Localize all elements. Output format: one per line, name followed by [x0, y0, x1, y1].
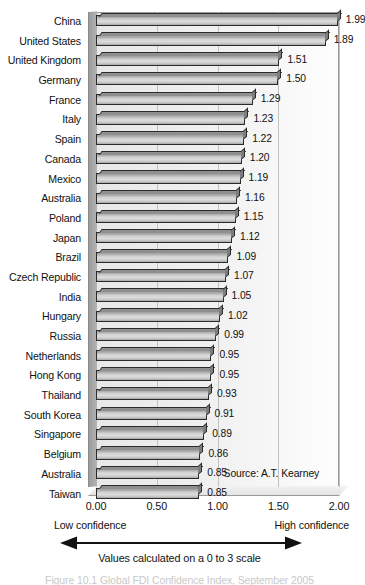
x-tick-label: 0.50	[146, 500, 167, 512]
category-label: United Kingdom	[0, 51, 84, 71]
figure-caption-cutoff: Figure 10.1 Global FDI Confidence Index,…	[0, 574, 359, 585]
bar	[96, 488, 199, 499]
bar	[96, 409, 207, 420]
bar	[96, 429, 204, 440]
bar-value-label: 1.07	[234, 269, 254, 282]
bar	[96, 74, 278, 85]
category-axis-labels: ChinaUnited StatesUnited KingdomGermanyF…	[0, 12, 84, 504]
bar-row: 1.16	[96, 189, 339, 209]
category-label: Australia	[0, 189, 84, 209]
category-label: Poland	[0, 209, 84, 229]
scale-caption: Values calculated on a 0 to 3 scale	[0, 552, 359, 564]
category-label: Thailand	[0, 386, 84, 406]
bar	[96, 134, 244, 145]
x-tick-label: 1.00	[207, 500, 228, 512]
bar-row: 1.20	[96, 150, 339, 170]
bar	[96, 173, 241, 184]
category-label: Australia	[0, 465, 84, 485]
bar-row: 1.12	[96, 229, 339, 249]
bar-row: 1.05	[96, 288, 339, 308]
bar-value-label: 1.89	[334, 33, 354, 46]
category-label: Singapore	[0, 425, 84, 445]
bar-value-label: 1.22	[252, 132, 272, 145]
bar-value-label: 0.95	[219, 348, 239, 361]
bar	[96, 449, 200, 460]
high-confidence-label: High confidence	[275, 519, 349, 531]
category-label: France	[0, 91, 84, 111]
category-label: Netherlands	[0, 347, 84, 367]
category-label: South Korea	[0, 406, 84, 426]
bar-value-label: 1.02	[228, 309, 248, 322]
bar-row: 0.95	[96, 366, 339, 386]
x-tick-label: 1.50	[268, 500, 289, 512]
bar-value-label: 0.86	[208, 447, 228, 460]
bar-row: 1.07	[96, 268, 339, 288]
bar	[96, 389, 209, 400]
bar	[96, 271, 226, 282]
bar-row: 1.23	[96, 110, 339, 130]
bar-row: 0.86	[96, 445, 339, 465]
x-tick-label: 2.00	[329, 500, 350, 512]
bar-row: 1.29	[96, 91, 339, 111]
bar-value-label: 1.23	[253, 112, 273, 125]
bar-row: 1.51	[96, 51, 339, 71]
bar	[96, 153, 242, 164]
bar	[96, 468, 199, 479]
bar	[96, 350, 211, 361]
category-label: Mexico	[0, 170, 84, 190]
category-label: United States	[0, 32, 84, 52]
bar	[96, 311, 220, 322]
bar	[96, 252, 228, 263]
bar-row: 1.89	[96, 32, 339, 52]
bar-value-label: 1.50	[286, 72, 306, 85]
category-label: Czech Republic	[0, 268, 84, 288]
bar	[96, 15, 338, 26]
bar-value-label: 0.95	[219, 368, 239, 381]
bar-value-label: 0.89	[212, 427, 232, 440]
bar-value-label: 0.99	[224, 328, 244, 341]
bar	[96, 193, 237, 204]
double-headed-arrow-icon	[60, 536, 302, 550]
bar-value-label: 1.51	[287, 53, 307, 66]
bar-row: 0.89	[96, 425, 339, 445]
category-label: Hong Kong	[0, 366, 84, 386]
x-axis-ticks: 0.000.501.001.502.00	[88, 500, 339, 516]
bar-value-label: 1.09	[236, 250, 256, 263]
source-note: Source: A.T. Kearney	[224, 468, 320, 479]
bar-value-label: 1.15	[244, 210, 264, 223]
bar	[96, 330, 216, 341]
bar	[96, 291, 224, 302]
bar	[96, 55, 279, 66]
category-label: Russia	[0, 327, 84, 347]
bar	[96, 114, 245, 125]
category-label: Brazil	[0, 248, 84, 268]
category-label: Taiwan	[0, 485, 84, 505]
bar-series: 1.991.891.511.501.291.231.221.201.191.16…	[96, 12, 339, 487]
bar-value-label: 1.29	[261, 92, 281, 105]
category-label: Spain	[0, 130, 84, 150]
bar-row: 1.19	[96, 170, 339, 190]
bar	[96, 35, 326, 46]
category-label: Germany	[0, 71, 84, 91]
bar-row: 0.95	[96, 347, 339, 367]
bar-value-label: 1.19	[249, 171, 269, 184]
category-label: Italy	[0, 110, 84, 130]
bar-value-label: 1.20	[250, 151, 270, 164]
bar-row: 1.15	[96, 209, 339, 229]
bar-value-label: 1.05	[232, 289, 252, 302]
category-label: Belgium	[0, 445, 84, 465]
gridline	[339, 12, 340, 487]
bar-value-label: 1.99	[346, 13, 365, 26]
category-label: Hungary	[0, 307, 84, 327]
category-label: India	[0, 288, 84, 308]
bar	[96, 94, 253, 105]
category-label: China	[0, 12, 84, 32]
bar-value-label: 0.85	[207, 486, 227, 499]
bar	[96, 232, 232, 243]
bar	[96, 212, 236, 223]
x-tick-label: 0.00	[86, 500, 107, 512]
bar-row: 1.50	[96, 71, 339, 91]
bar	[96, 370, 211, 381]
bar-value-label: 1.12	[240, 230, 260, 243]
